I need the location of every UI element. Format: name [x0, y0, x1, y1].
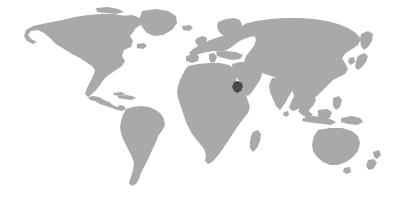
world-map	[0, 0, 415, 200]
world-locator-map	[0, 0, 415, 200]
